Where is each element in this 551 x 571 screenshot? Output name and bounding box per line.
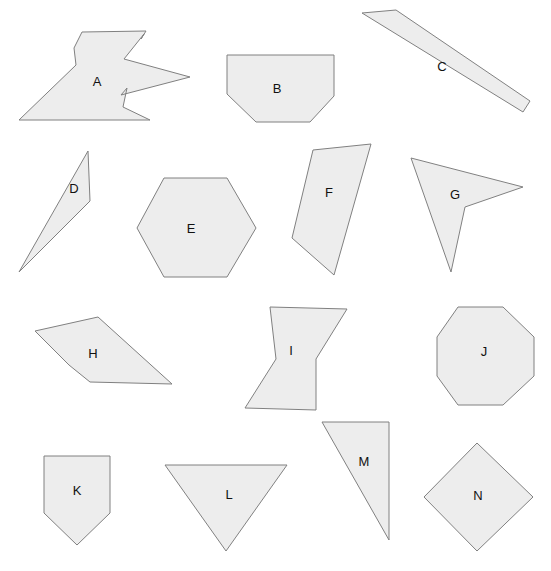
shapes-canvas-container: ABCDEFGHIJKLMN: [0, 0, 551, 571]
shapes-canvas: ABCDEFGHIJKLMN: [0, 0, 551, 571]
